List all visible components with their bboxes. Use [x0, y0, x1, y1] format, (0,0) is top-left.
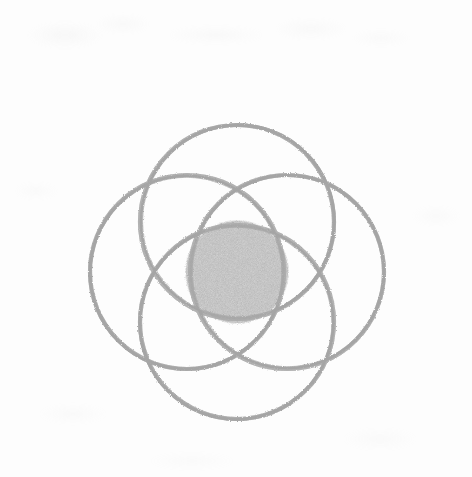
rosette-figure — [0, 0, 472, 477]
drawing-canvas — [0, 0, 472, 477]
circle-center-filled-soft — [186, 221, 288, 323]
